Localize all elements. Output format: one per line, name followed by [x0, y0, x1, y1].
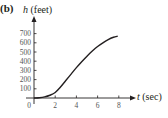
x-tick-label: 2	[53, 101, 57, 110]
y-tick-label: 400	[20, 57, 32, 66]
x-tick-label: 0	[27, 101, 31, 110]
x-tick-label: 8	[117, 101, 121, 110]
y-tick-label: 200	[20, 75, 32, 84]
axes	[26, 16, 136, 104]
x-axis-arrow-icon	[130, 96, 136, 101]
line-chart: 02468100200300400500600700	[0, 0, 168, 118]
y-tick-label: 700	[20, 29, 32, 38]
y-tick-label: 500	[20, 48, 32, 57]
data-curve	[34, 36, 118, 98]
y-tick-label: 300	[20, 66, 32, 75]
x-tick-label: 6	[96, 101, 100, 110]
x-tick-label: 4	[75, 101, 79, 110]
y-tick-label: 600	[20, 38, 32, 47]
y-axis-arrow-icon	[32, 16, 37, 22]
y-tick-label: 100	[20, 84, 32, 93]
